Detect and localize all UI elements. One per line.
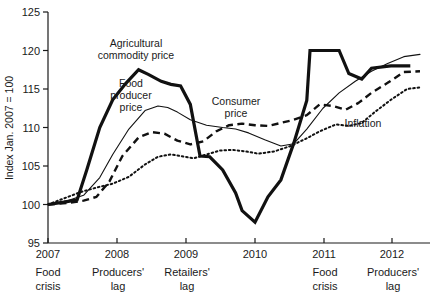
y-tick-label-110: 110 [22,122,40,134]
x-tick-label-2012: 2012 [380,248,404,260]
y-tick-label-120: 120 [22,45,40,57]
phase-annotation-2-line2: lag [180,280,195,292]
phase-annotation-3-line1: Food [312,266,337,278]
x-tick-label-2010: 2010 [243,248,267,260]
y-tick-labels: 125 120 115 110 105 100 95 [22,6,40,249]
y-tick-label-100: 100 [22,199,40,211]
series-label-agricultural-commodity-price-line1: Agricultural [110,37,163,49]
phase-annotation-1-line1: Producers' [92,266,144,278]
series-line-consumer-price [48,71,420,204]
x-tick-labels: 2007 2008 2009 2010 2011 2012 [36,248,404,260]
phase-annotation-4-line1: Producers' [367,266,419,278]
chart-figure: 125 120 115 110 105 100 95 2007 2008 200… [0,0,434,299]
series-label-consumer-price-line2: price [225,107,248,119]
chart-svg: 125 120 115 110 105 100 95 2007 2008 200… [0,0,434,299]
series-label-food-producer-price-line2: producer [110,89,152,101]
phase-annotation-2-line1: Retailers' [164,266,210,278]
phase-annotation-3-line2: crisis [312,280,338,292]
x-tick-label-2008: 2008 [105,248,129,260]
phase-annotation-0-line2: crisis [35,280,61,292]
series-label-inflation: Inflation [345,117,382,129]
phase-annotation-4-line2: lag [386,280,401,292]
series-label-food-producer-price-line1: Food [119,77,143,89]
x-tick-label-2007: 2007 [36,248,60,260]
phase-annotations: Food crisis Producers' lag Retailers' la… [35,266,419,292]
series-label-consumer-price-line1: Consumer [212,95,261,107]
phase-annotation-0-line1: Food [35,266,60,278]
x-tick-label-2009: 2009 [174,248,198,260]
y-axis-title: Index Jan. 2007 = 100 [3,76,15,180]
chart-series [48,51,420,223]
y-tick-label-105: 105 [22,160,40,172]
series-label-food-producer-price-line3: price [120,101,143,113]
y-tick-label-125: 125 [22,6,40,18]
y-tick-label-115: 115 [22,83,40,95]
phase-annotation-1-line2: lag [111,280,126,292]
x-tick-label-2011: 2011 [312,248,336,260]
series-line-agricultural-commodity-price [48,51,410,223]
series-label-agricultural-commodity-price-line2: commodity price [98,49,175,61]
